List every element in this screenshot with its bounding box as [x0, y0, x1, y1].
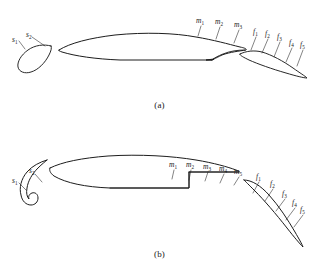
label-flap-f4-b: f4	[292, 199, 297, 207]
leader-tick-s1-a	[19, 41, 25, 49]
flap-outline-b	[244, 180, 303, 247]
leader-tick-m5-b	[234, 177, 239, 185]
panel-a-drawing	[0, 0, 319, 140]
leader-tick-m4-b	[220, 174, 224, 183]
leader-tick-f3-a	[274, 42, 280, 57]
label-main-m2-b: m2	[186, 161, 194, 169]
label-flap-f1-b: f1	[256, 173, 261, 181]
label-slat-s1-a: s1	[12, 36, 18, 44]
label-slat-s2-a: s2	[26, 31, 32, 39]
label-main-m4-b: m4	[219, 165, 227, 173]
label-flap-f1-a: f1	[253, 28, 258, 36]
figure-container: s1 s2 m1 m2 m3 f1 f2 f3 f4 f5 (a)	[0, 0, 319, 279]
leader-tick-s2-b	[35, 174, 42, 182]
label-main-m5-b: m5	[234, 168, 242, 176]
leader-tick-m3-a	[234, 30, 239, 43]
leader-tick-f4-a	[286, 48, 292, 62]
leader-tick-f4-b	[286, 208, 295, 220]
label-slat-s2-b: s2	[29, 167, 35, 175]
leader-tick-f5-a	[297, 50, 303, 66]
main-element-notch-b	[110, 172, 189, 188]
leader-tick-f2-b	[265, 189, 273, 201]
leader-tick-m3-b	[205, 172, 208, 181]
label-main-m1-a: m1	[196, 17, 204, 25]
label-flap-f5-b: f5	[300, 206, 305, 214]
panel-a: s1 s2 m1 m2 m3 f1 f2 f3 f4 f5	[0, 0, 319, 140]
slat-outline-a	[18, 45, 52, 73]
leader-tick-m1-a	[198, 26, 201, 36]
leader-tick-f2-a	[262, 39, 268, 53]
label-main-m2-a: m2	[215, 18, 223, 26]
leader-tick-m2-a	[216, 27, 220, 39]
leader-tick-f5-b	[294, 215, 303, 227]
label-main-m1-b: m1	[169, 161, 177, 169]
label-main-m3-b: m3	[203, 163, 211, 171]
leader-tick-f1-a	[251, 37, 256, 50]
flap-outline-a	[240, 51, 307, 78]
label-slat-s1-b: s1	[12, 177, 18, 185]
label-flap-f5-a: f5	[300, 41, 305, 49]
label-flap-f3-a: f3	[277, 33, 282, 41]
leader-tick-s2-a	[32, 37, 45, 46]
leader-tick-m1-b	[172, 170, 174, 179]
label-flap-f4-a: f4	[289, 39, 294, 47]
label-flap-f3-b: f3	[282, 190, 287, 198]
label-main-m3-a: m3	[234, 21, 242, 29]
caption-panel-b: (b)	[0, 249, 319, 259]
label-flap-f2-a: f2	[265, 30, 270, 38]
label-flap-f2-b: f2	[270, 180, 275, 188]
caption-panel-a: (a)	[0, 100, 319, 110]
